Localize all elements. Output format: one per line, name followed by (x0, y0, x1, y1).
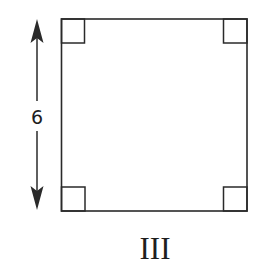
figure-label: III (140, 231, 171, 266)
square-outline (62, 19, 248, 211)
square-diagram: 6 III (0, 0, 268, 269)
right-angle-marker-top-right (224, 19, 248, 43)
right-angle-marker-top-left (62, 19, 85, 43)
right-angle-marker-bottom-right (224, 187, 248, 211)
right-angle-marker-bottom-left (62, 187, 86, 211)
side-length-label: 6 (31, 106, 43, 128)
